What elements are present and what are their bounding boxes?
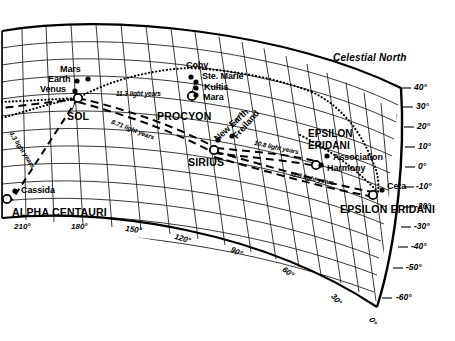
y-tick-0: 0° [418, 161, 426, 171]
y-tick-minus50: -50° [406, 262, 422, 272]
dot-coby [188, 74, 193, 79]
y-tick-minus40: -40° [411, 241, 427, 251]
dot-harmony [318, 162, 323, 167]
marker-sol [74, 94, 82, 102]
planet-label-ceta: Ceta [387, 181, 406, 191]
dot-kultis [193, 85, 198, 90]
chart-right-limb [377, 88, 402, 307]
chart-bottom-edge [2, 216, 377, 307]
dot-earth [74, 78, 79, 83]
dot-mars [85, 76, 90, 81]
planet-label-kultis: Kultis [204, 82, 228, 92]
system-label-eridani: ERIDANI [308, 140, 350, 151]
y-tick-minus60: -60° [396, 292, 412, 302]
marker-tau-ceti [369, 191, 377, 199]
dot-venus [72, 88, 77, 93]
marker-sirius [210, 146, 218, 154]
planet-label-mars: Mars [60, 64, 81, 74]
system-label-alpha-centauri: ALPHA CENTAURI [12, 206, 107, 218]
dot-association [324, 153, 329, 158]
y-tick-minus30: -30° [414, 221, 430, 231]
planet-label-ste-marie: Ste. Marie [202, 71, 244, 81]
planet-label-harmony: Harmony [327, 163, 365, 173]
system-label-sirius: SIRIUS [188, 156, 224, 168]
system-label-epsilon: EPSILON [308, 128, 353, 139]
y-tick-minus20: -20° [415, 201, 431, 211]
star-chart: Celestial North Mars Earth Venus SOL Cas… [0, 0, 455, 341]
dot-cassida [12, 188, 17, 193]
planet-label-association: Association [333, 152, 383, 162]
dot-ceta [379, 187, 384, 192]
planet-label-coby: Coby [186, 60, 208, 70]
y-tick-20: 20° [417, 121, 430, 131]
celestial-north-label: Celestial North [333, 52, 407, 63]
y-tick-30: 30° [416, 101, 429, 111]
planet-label-mara: Mara [203, 92, 224, 102]
dot-ste-marie [193, 79, 198, 84]
dashed-route-sirius [78, 98, 216, 153]
marker-alpha-centauri [3, 195, 11, 203]
y-tick-minus10: -10° [416, 181, 432, 191]
x-tick-210: 210° [14, 222, 31, 231]
system-label-procyon: PROCYON [157, 110, 212, 122]
system-label-sol: SOL [67, 110, 89, 122]
planet-label-earth: Earth [48, 74, 71, 84]
y-tick-40: 40° [414, 82, 427, 92]
dot-mara [193, 92, 198, 97]
y-tick-10: 10° [418, 141, 431, 151]
planet-label-venus: Venus [40, 84, 66, 94]
x-tick-180: 180° [71, 222, 88, 231]
distance-label-11-3: 11.3 light years [116, 90, 161, 97]
planet-label-cassida: Cassida [21, 185, 55, 195]
